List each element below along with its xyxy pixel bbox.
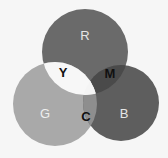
- label-b: B: [120, 106, 129, 121]
- rgb-venn-diagram: R Y M G C B: [0, 0, 168, 158]
- label-y: Y: [59, 65, 68, 80]
- label-c: C: [81, 109, 91, 124]
- label-g: G: [40, 106, 50, 121]
- label-m: M: [105, 66, 116, 81]
- label-r: R: [80, 28, 89, 43]
